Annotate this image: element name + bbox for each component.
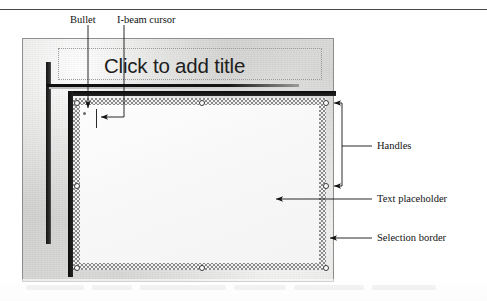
title-placeholder-text[interactable]: Click to add title	[104, 52, 314, 80]
leader-handles	[334, 103, 372, 186]
annotation-label-handles: Handles	[377, 140, 411, 152]
annotation-label-text-placeholder: Text placeholder	[377, 193, 447, 205]
annotation-label-bullet: Bullet	[70, 14, 96, 26]
handle-middle-right[interactable]	[323, 183, 329, 189]
i-beam-cursor	[96, 109, 97, 128]
annotation-label-selection-border: Selection border	[377, 232, 446, 244]
placeholder-top-shadow-edge	[68, 91, 336, 96]
slide-design-vertical-bar	[46, 62, 51, 244]
handle-middle-left[interactable]	[74, 183, 80, 189]
handle-bottom-middle[interactable]	[199, 265, 205, 271]
text-placeholder-fill[interactable]	[80, 105, 319, 263]
scan-bleed-through	[0, 279, 487, 301]
page-rule-top	[0, 9, 487, 10]
handle-bottom-left[interactable]	[74, 265, 80, 271]
annotation-label-ibeam-cursor: I-beam cursor	[117, 14, 176, 26]
slide-title-underline-shadow	[49, 87, 299, 89]
figure-root: Click to add title	[0, 0, 487, 301]
handle-top-right[interactable]	[323, 100, 329, 106]
handle-bottom-right[interactable]	[323, 265, 329, 271]
handle-top-left[interactable]	[74, 100, 80, 106]
bullet-marker	[83, 112, 86, 115]
handle-top-middle[interactable]	[199, 100, 205, 106]
